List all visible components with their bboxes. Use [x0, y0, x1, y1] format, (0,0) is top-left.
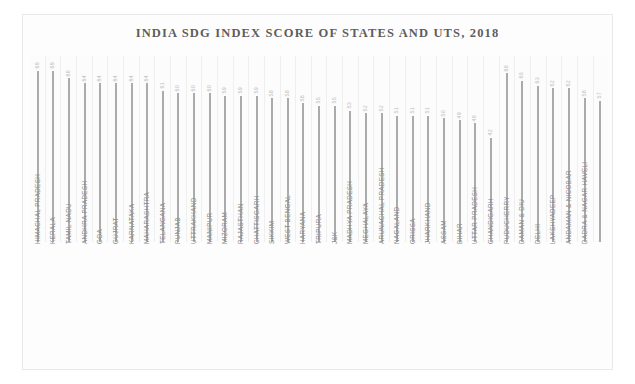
- x-axis-label: RAJASTHAN: [238, 203, 244, 244]
- x-axis-label: UTTAR PRADESH: [472, 187, 478, 244]
- bar-value-label: 60: [176, 85, 181, 91]
- bar-item[interactable]: 50: [436, 56, 452, 242]
- x-axis-label: MIZORAM: [222, 212, 228, 244]
- x-axis-label-slot: TRIPURA: [311, 244, 327, 370]
- bar-value-label: 60: [191, 85, 196, 91]
- x-axis-label-slot: RAJASTHAN: [233, 244, 249, 370]
- bar-value-label: 58: [285, 90, 290, 96]
- bar-value-label: 61: [160, 82, 165, 88]
- x-axis-label-slot: GUJRAT: [108, 244, 124, 370]
- bar[interactable]: [537, 86, 539, 242]
- bar-value-label: 52: [363, 105, 368, 111]
- bar-item[interactable]: 69: [46, 56, 62, 242]
- x-axis-label: MANIPUR: [207, 213, 213, 245]
- x-axis-label-slot: DELHI: [530, 244, 546, 370]
- x-axis-label: KARNATAKA: [128, 204, 134, 244]
- x-axis-label: HARYANA: [300, 212, 306, 244]
- x-axis-label: LAKSHYADEEP: [550, 194, 556, 244]
- bar-value-label: 55: [316, 97, 321, 103]
- bar-value-label: 56: [301, 95, 306, 101]
- x-axis-label-slot: PUDUCHERRY: [499, 244, 515, 370]
- bar-value-label: 51: [394, 107, 399, 113]
- x-axis-label: TAMIL NADU: [66, 203, 72, 244]
- x-axis-label: PUNJAB: [175, 217, 181, 244]
- x-axis-label-slot: MEGHALAYA: [358, 244, 374, 370]
- x-axis-label-slot: HIMACHAL PRADESH: [30, 244, 46, 370]
- x-axis-label-slot: UTTAR PRADESH: [468, 244, 484, 370]
- bar-value-label: 62: [566, 80, 571, 86]
- x-axis-label: JHARKHAND: [425, 202, 431, 244]
- bar-value-label: 48: [473, 115, 478, 121]
- x-axis-label: DELHI: [535, 224, 541, 244]
- bar-item[interactable]: 64: [93, 56, 109, 242]
- bar-item[interactable]: 64: [108, 56, 124, 242]
- x-axis-label: UTTRAKHAND: [191, 197, 197, 244]
- bar-value-label: 59: [238, 87, 243, 93]
- x-axis-label-slot: MADHYA PRADESH: [343, 244, 359, 370]
- x-axis-label: ASSAM: [441, 220, 447, 244]
- bar-item[interactable]: 55: [327, 56, 343, 242]
- bar-value-label: 50: [441, 110, 446, 116]
- x-axis-label: ANDHRA PRADESH: [82, 181, 88, 244]
- x-axis-label: CHATTISGARH: [253, 195, 259, 244]
- bar-item[interactable]: 60: [171, 56, 187, 242]
- x-axis-label-slot: NAGALAND: [389, 244, 405, 370]
- bar-item[interactable]: 63: [530, 56, 546, 242]
- x-axis-label: ARUNACHAL PRADESH: [378, 167, 384, 244]
- bar-value-label: 60: [207, 85, 212, 91]
- x-axis-label-slot: MIZORAM: [218, 244, 234, 370]
- x-axis-label-slot: UTTRAKHAND: [186, 244, 202, 370]
- x-axis-label: WEST BENGAL: [285, 195, 291, 244]
- x-axis-label-slot: PUNJAB: [171, 244, 187, 370]
- bar-value-label: 51: [426, 107, 431, 113]
- x-axis-label-slot: TAMIL NADU: [61, 244, 77, 370]
- x-axis-label: HIMACHAL PRADESH: [35, 174, 41, 244]
- x-axis-label: BIHAR: [457, 223, 463, 244]
- bar-value-label: 64: [144, 75, 149, 81]
- x-axis-label-slot: DAMAN & DIU: [514, 244, 530, 370]
- bar-value-label: 58: [582, 90, 587, 96]
- bar-item[interactable]: 57: [593, 56, 609, 242]
- bar-item[interactable]: 51: [405, 56, 421, 242]
- x-axis-label-slot: DADRA & NAGAR HAVELI: [577, 244, 593, 370]
- bar-value-label: 62: [551, 80, 556, 86]
- bar-value-label: 52: [379, 105, 384, 111]
- bar-item[interactable]: 49: [452, 56, 468, 242]
- x-axis-label-slot: ANDAMAN & NICOBAR: [561, 244, 577, 370]
- x-axis-label-slot: BIHAR: [452, 244, 468, 370]
- bar[interactable]: [99, 83, 101, 242]
- x-axis-label-slot: TELANGANA: [155, 244, 171, 370]
- x-axis-label-slot: KARNATAKA: [124, 244, 140, 370]
- x-axis-label: MADHYA PRADESH: [347, 181, 353, 244]
- x-axis-label-slot: LAKSHYADEEP: [546, 244, 562, 370]
- x-axis-label: TRIPURA: [316, 214, 322, 244]
- x-axis-label: ANDAMAN & NICOBAR: [566, 170, 572, 244]
- x-axis-label-slot: ANDHRA PRADESH: [77, 244, 93, 370]
- bar-value-label: 58: [269, 90, 274, 96]
- x-axis-label: MAHARASHTRA: [144, 192, 150, 244]
- x-axis-label-slot: [593, 244, 609, 370]
- bar-value-label: 42: [488, 129, 493, 135]
- bar-value-label: 59: [254, 87, 259, 93]
- x-axis-label-slot: MANIPUR: [202, 244, 218, 370]
- bar[interactable]: [599, 101, 601, 242]
- x-axis-label: CHANDIGARH: [488, 198, 494, 244]
- bar-item[interactable]: 58: [264, 56, 280, 242]
- bar-value-label: 65: [519, 72, 524, 78]
- x-axis-label: TELANGANA: [160, 203, 166, 244]
- bar-value-label: 59: [223, 87, 228, 93]
- bar-value-label: 64: [113, 75, 118, 81]
- x-axis-label: MEGHALAYA: [363, 203, 369, 244]
- bar[interactable]: [334, 106, 336, 242]
- x-axis-label: ORISSA: [410, 218, 416, 244]
- x-axis-label: PUDUCHERRY: [503, 196, 509, 244]
- chart-title: INDIA SDG INDEX SCORE OF STATES AND UTS,…: [0, 26, 635, 41]
- x-axis-label-slot: CHANDIGARH: [483, 244, 499, 370]
- x-axis-label-slot: KERALA: [46, 244, 62, 370]
- x-axis-label-slot: SIKKIM: [264, 244, 280, 370]
- x-axis-label-slot: JHARKHAND: [421, 244, 437, 370]
- x-axis-label-slot: GOA: [93, 244, 109, 370]
- bar-value-label: 55: [332, 97, 337, 103]
- x-axis-label-slot: ASSAM: [436, 244, 452, 370]
- bar-value-label: 64: [129, 75, 134, 81]
